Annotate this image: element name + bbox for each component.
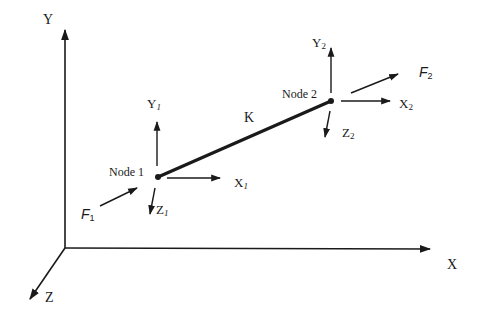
node-1-force-sub: 1 bbox=[90, 213, 95, 223]
node-2-z-label: Z2 bbox=[342, 126, 354, 141]
node-2-y-letter: Y bbox=[312, 35, 321, 50]
beam-element-diagram bbox=[0, 0, 483, 324]
global-z-label: Z bbox=[45, 291, 54, 305]
node-2-point bbox=[328, 98, 334, 104]
node-2-x-label: X2 bbox=[399, 97, 413, 112]
node-1-point bbox=[155, 174, 161, 180]
global-x-label: X bbox=[447, 258, 457, 272]
stiffness-label: K bbox=[244, 111, 254, 125]
node-1-y-label: Y1 bbox=[147, 97, 161, 112]
node-2-z-sub: 2 bbox=[350, 131, 355, 141]
node-2-force-symbol: F bbox=[419, 64, 428, 80]
node-1-z-letter: Z bbox=[156, 202, 164, 217]
node-2-force-label: F2 bbox=[419, 65, 433, 81]
node-1-y-letter: Y bbox=[147, 96, 156, 111]
node-1-force-arrow bbox=[100, 188, 137, 206]
global-axes bbox=[30, 30, 430, 299]
global-y-label: Y bbox=[43, 13, 53, 27]
node-1-force-symbol: F bbox=[81, 206, 90, 222]
node-1-z-sub: 1 bbox=[164, 208, 169, 218]
node-2-z-axis bbox=[325, 111, 330, 137]
node-2-force-arrow bbox=[351, 74, 398, 93]
node-1-y-sub: 1 bbox=[156, 102, 161, 112]
node-1-force-label: F1 bbox=[81, 207, 95, 223]
node-2-x-sub: 2 bbox=[408, 102, 413, 112]
node-2-x-letter: X bbox=[399, 96, 408, 111]
node-2-z-letter: Z bbox=[342, 125, 350, 140]
node-1-x-letter: X bbox=[234, 175, 243, 190]
node-2-label: Node 2 bbox=[282, 88, 317, 100]
node-2-force-sub: 2 bbox=[428, 71, 433, 81]
node-1-x-sub: 1 bbox=[243, 181, 248, 191]
node-1-z-axis bbox=[150, 188, 155, 214]
node-1-z-label: Z1 bbox=[156, 203, 168, 218]
node-2-local-axes bbox=[325, 48, 398, 137]
node-2-y-label: Y2 bbox=[312, 36, 326, 51]
node-2-y-sub: 2 bbox=[321, 41, 326, 51]
node-1-x-label: X1 bbox=[234, 176, 248, 191]
global-x-axis bbox=[65, 248, 430, 249]
node-1-label: Node 1 bbox=[109, 166, 144, 178]
